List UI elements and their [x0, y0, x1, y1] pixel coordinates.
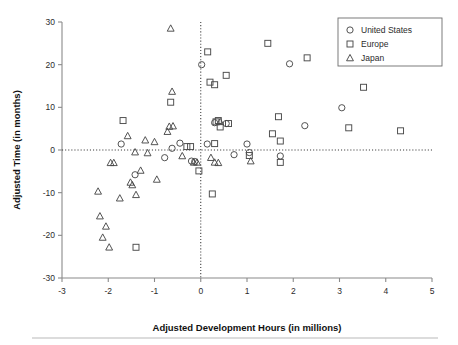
y-axis-title: Adjusted Time (in months) [11, 90, 22, 210]
y-tick-label: 10 [46, 102, 56, 112]
data-point-circle [302, 123, 308, 129]
data-point-square [269, 131, 275, 137]
data-point-triangle [179, 152, 186, 158]
data-point-circle [169, 145, 175, 151]
data-point-square [205, 49, 211, 55]
data-point-square [265, 40, 271, 46]
x-tick-label: 3 [337, 286, 342, 296]
data-point-triangle [106, 244, 113, 250]
data-point-triangle [137, 167, 144, 173]
data-point-triangle [129, 181, 136, 187]
data-point-triangle [167, 25, 174, 31]
x-tick-label: 5 [430, 286, 435, 296]
x-tick-label: 0 [198, 286, 203, 296]
data-point-square [212, 141, 218, 147]
chart-canvas: -30-20-100102030-3-2-1012345Adjusted Dev… [0, 0, 458, 345]
y-tick-label: 20 [46, 60, 56, 70]
legend-label-triangle: Japan [361, 53, 384, 63]
data-point-circle [223, 120, 229, 126]
data-point-square [277, 159, 283, 165]
data-point-square [398, 128, 404, 134]
data-point-circle [118, 141, 124, 147]
data-point-triangle [151, 138, 158, 144]
data-point-square [275, 114, 281, 120]
data-point-square [209, 191, 215, 197]
y-tick-label: 0 [50, 145, 55, 155]
x-tick-label: 1 [245, 286, 250, 296]
data-point-triangle [169, 88, 176, 94]
x-tick-label: 4 [383, 286, 388, 296]
data-point-triangle [215, 159, 222, 165]
legend-label-circle: United States [361, 25, 412, 35]
data-point-circle [199, 62, 205, 68]
data-point-square [361, 84, 367, 90]
data-point-triangle [144, 149, 151, 155]
y-tick-label: -30 [43, 273, 56, 283]
x-tick-label: -1 [151, 286, 159, 296]
data-point-triangle [124, 132, 131, 138]
data-point-square [168, 99, 174, 105]
data-point-circle [231, 152, 237, 158]
y-tick-label: -20 [43, 230, 56, 240]
data-point-circle [177, 140, 183, 146]
data-point-circle [204, 141, 210, 147]
series-united-states [118, 61, 345, 178]
data-point-square [346, 125, 352, 131]
data-point-square [120, 118, 126, 124]
data-point-triangle [133, 191, 140, 197]
data-point-circle [339, 105, 345, 111]
scatter-plot-figure: -30-20-100102030-3-2-1012345Adjusted Dev… [0, 0, 458, 345]
y-tick-label: 30 [46, 17, 56, 27]
x-tick-label: -2 [104, 286, 112, 296]
data-point-circle [277, 153, 283, 159]
data-point-triangle [95, 188, 102, 194]
x-axis-title: Adjusted Development Hours (in millions) [153, 322, 342, 333]
x-tick-label: -3 [58, 286, 66, 296]
data-point-triangle [103, 223, 110, 229]
data-point-circle [244, 141, 250, 147]
data-point-square [184, 144, 190, 150]
data-point-circle [162, 155, 168, 161]
data-point-square [304, 55, 310, 61]
series-europe [120, 40, 403, 250]
data-point-square [188, 144, 194, 150]
x-tick-label: 2 [291, 286, 296, 296]
data-point-square [133, 244, 139, 250]
data-point-triangle [116, 195, 123, 201]
series-japan [95, 25, 254, 250]
data-point-triangle [99, 234, 106, 240]
y-tick-label: -10 [43, 188, 56, 198]
data-point-circle [286, 61, 292, 67]
data-point-triangle [153, 176, 160, 182]
data-point-square [277, 138, 283, 144]
data-point-triangle [142, 137, 149, 143]
legend: United StatesEuropeJapan [338, 18, 442, 66]
legend-label-square: Europe [361, 39, 389, 49]
data-point-triangle [96, 213, 103, 219]
data-point-triangle [207, 154, 214, 160]
data-point-square [223, 72, 229, 78]
